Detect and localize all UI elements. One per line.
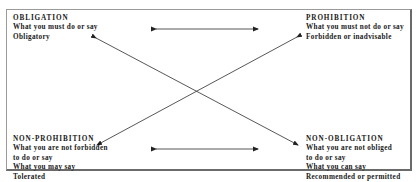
non-obligation-block: NON-OBLIGATION What you are not obliged … bbox=[306, 135, 401, 182]
non-obligation-title: NON-OBLIGATION bbox=[306, 135, 401, 144]
non-prohibition-line-2: to do or say bbox=[13, 154, 108, 163]
obligation-title: OBLIGATION bbox=[13, 14, 98, 23]
prohibition-title: PROHIBITION bbox=[306, 14, 404, 23]
prohibition-line-1: What you must not do or say bbox=[306, 23, 404, 32]
non-prohibition-line-3: What you may say bbox=[13, 163, 108, 172]
non-prohibition-line-4: Tolerated bbox=[13, 173, 108, 182]
obligation-line-1: What you must do or say bbox=[13, 23, 98, 32]
obligation-line-2: Obligatory bbox=[13, 33, 98, 42]
non-obligation-line-3: What you can say bbox=[306, 163, 401, 172]
obligation-block: OBLIGATION What you must do or say Oblig… bbox=[13, 14, 98, 42]
prohibition-line-2: Forbidden or inadvisable bbox=[306, 33, 404, 42]
non-obligation-line-2: to do or say bbox=[306, 154, 401, 163]
non-prohibition-line-1: What you are not forbidden bbox=[13, 144, 108, 153]
non-prohibition-title: NON-PROHIBITION bbox=[13, 135, 108, 144]
non-prohibition-block: NON-PROHIBITION What you are not forbidd… bbox=[13, 135, 108, 182]
non-obligation-line-1: What you are not obliged bbox=[306, 144, 401, 153]
non-obligation-line-4: Recommended or permitted bbox=[306, 173, 401, 182]
prohibition-block: PROHIBITION What you must not do or say … bbox=[306, 14, 404, 42]
